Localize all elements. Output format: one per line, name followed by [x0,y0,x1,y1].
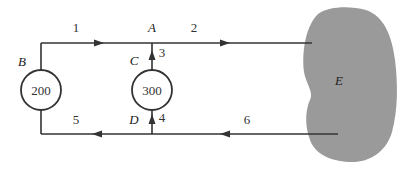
label-d: D [128,112,139,127]
arrow-edge-6-icon [220,131,230,138]
label-edge-4: 4 [159,110,166,125]
label-c: C [130,53,139,68]
label-edge-1: 1 [73,20,80,35]
label-edge-5: 5 [73,112,80,127]
flow-diagram: 200 300 B C A D E 1 2 3 4 5 6 [0,0,414,171]
label-edge-2: 2 [191,20,198,35]
arrow-edge-4-icon [149,114,156,124]
node-b-value: 200 [31,83,51,98]
node-c-value: 300 [142,83,162,98]
label-edge-6: 6 [244,112,251,127]
arrow-edge-2-icon [220,40,230,47]
label-b: B [18,54,26,69]
arrow-edge-5-icon [92,131,102,138]
label-edge-3: 3 [159,45,166,60]
label-a: A [147,20,156,35]
arrow-edge-1-icon [94,40,104,47]
region-e [303,7,397,162]
arrow-edge-3-icon [149,50,156,60]
label-e: E [334,73,343,88]
